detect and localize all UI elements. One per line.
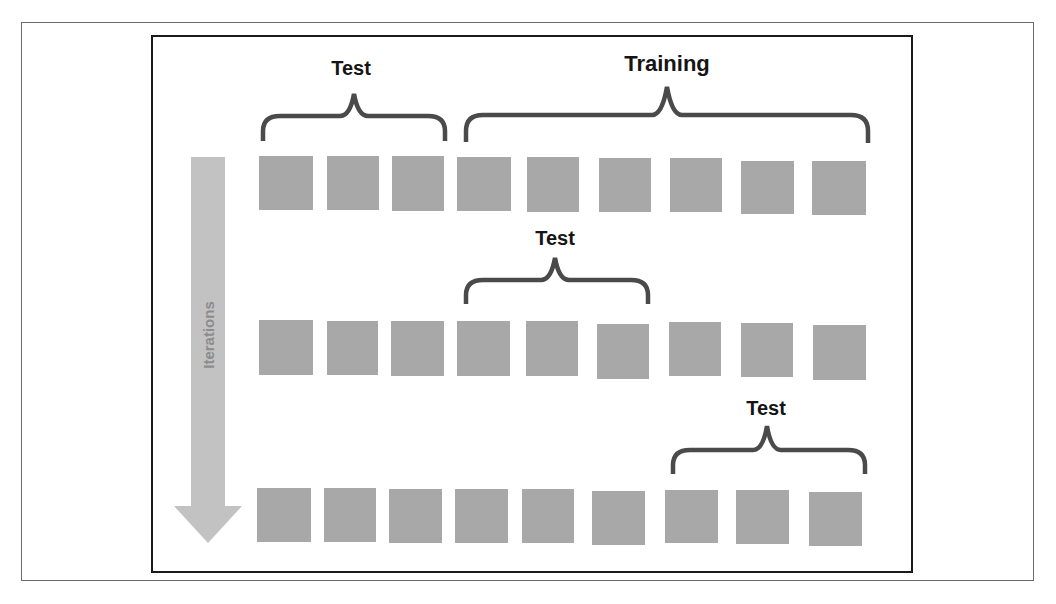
fold-square (522, 489, 574, 543)
fold-square (257, 488, 311, 542)
fold-square (813, 325, 866, 380)
fold-square (259, 156, 313, 210)
fold-square (455, 489, 508, 543)
fold-square (597, 324, 649, 379)
fold-square (389, 489, 442, 543)
row1-training-label: Training (624, 53, 710, 75)
fold-square (809, 492, 862, 546)
fold-square (599, 158, 651, 212)
row2-test-label: Test (535, 228, 575, 248)
fold-square (665, 490, 718, 543)
fold-square (670, 158, 722, 212)
fold-square (526, 321, 578, 376)
fold-square (741, 323, 793, 377)
fold-square (741, 161, 794, 214)
fold-square (457, 157, 511, 211)
fold-square (259, 320, 313, 375)
fold-square (392, 156, 444, 211)
fold-square (327, 321, 378, 375)
fold-square (457, 321, 510, 376)
row1-test-label: Test (331, 58, 371, 78)
fold-square (327, 156, 379, 210)
fold-square (812, 161, 866, 215)
fold-square (324, 488, 376, 542)
fold-square (391, 321, 444, 376)
fold-square (736, 490, 789, 544)
row3-test-label: Test (746, 398, 786, 418)
iterations-label: Iterations (201, 301, 216, 369)
fold-square (527, 157, 579, 212)
fold-square (669, 322, 721, 376)
fold-square (592, 491, 645, 545)
